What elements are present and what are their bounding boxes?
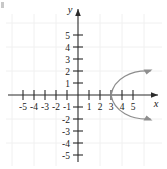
x-tick-label: 4 <box>120 102 125 112</box>
y-axis-label: y <box>67 4 73 15</box>
graph-figure: -5 -4 -3 -2 -1 1 2 3 4 5 5 4 3 2 1 -2 -3… <box>0 0 167 169</box>
x-tick-label: -1 <box>63 102 71 112</box>
x-tick-label: 2 <box>98 102 103 112</box>
x-axis <box>8 92 158 98</box>
x-tick-label: 5 <box>131 102 136 112</box>
x-tick-label: -4 <box>30 102 38 112</box>
y-tick-label: -5 <box>62 151 70 161</box>
x-tick-label: 1 <box>87 102 92 112</box>
y-tick-label: 2 <box>65 67 70 77</box>
x-tick-label: -5 <box>19 102 27 112</box>
curve-arrow-lower <box>144 115 153 120</box>
grid-lines <box>6 14 162 166</box>
coordinate-plane-svg: -5 -4 -3 -2 -1 1 2 3 4 5 5 4 3 2 1 -2 -3… <box>0 0 167 169</box>
y-tick-label: -2 <box>62 115 70 125</box>
y-tick-label: 3 <box>65 55 70 65</box>
y-tick-label: 1 <box>65 79 70 89</box>
y-tick-label: -3 <box>62 127 70 137</box>
x-tick-label: -3 <box>41 102 49 112</box>
curve-arrow-upper <box>144 69 153 74</box>
x-tick-label: 3 <box>109 102 114 112</box>
y-tick-label: 4 <box>65 43 70 53</box>
y-tick-label: -4 <box>62 139 70 149</box>
x-axis-label: x <box>153 98 159 109</box>
y-tick-label: 5 <box>65 31 70 41</box>
y-axis <box>75 9 81 162</box>
x-tick-label: -2 <box>52 102 60 112</box>
